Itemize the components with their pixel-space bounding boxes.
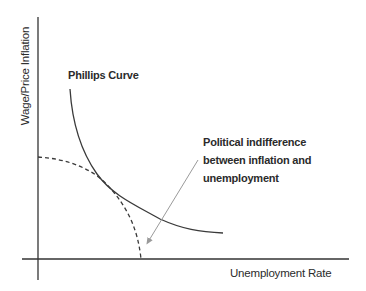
diagram-canvas: Wage/Price Inflation Phillips Curve Poli… bbox=[0, 0, 366, 291]
phillips-curve-line bbox=[70, 89, 223, 233]
indifference-annotation: Political indifference between inflation… bbox=[203, 133, 311, 187]
annotation-line-3: unemployment bbox=[203, 169, 311, 187]
annotation-line-1: Political indifference bbox=[203, 133, 311, 151]
indifference-curve-line bbox=[38, 157, 141, 259]
y-axis-label: Wage/Price Inflation bbox=[19, 27, 31, 125]
x-axis-label: Unemployment Rate bbox=[230, 264, 331, 282]
phillips-curve-label: Phillips Curve bbox=[68, 66, 139, 84]
annotation-line-2: between inflation and bbox=[203, 151, 311, 169]
